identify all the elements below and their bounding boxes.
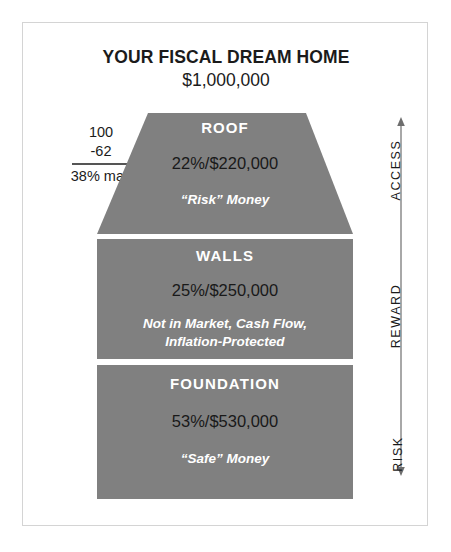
- axis-label-reward: REWARD: [389, 284, 403, 349]
- foundation-heading: FOUNDATION: [97, 375, 353, 392]
- axis-label-access: ACCESS: [389, 139, 403, 200]
- foundation-text-group: FOUNDATION 53%/$530,000 “Safe” Money: [97, 375, 353, 468]
- page-title: YOUR FISCAL DREAM HOME: [23, 47, 429, 67]
- walls-note-line-2: Inflation-Protected: [97, 333, 353, 351]
- walls-note: Not in Market, Cash Flow, Inflation-Prot…: [97, 315, 353, 351]
- right-axis-labels: ACCESS REWARD RISK: [375, 103, 429, 483]
- title-amount: $1,000,000: [23, 69, 429, 92]
- roof-note: “Risk” Money: [97, 191, 353, 209]
- roof-amount: 22%/$220,000: [97, 154, 353, 173]
- roof-text-group: ROOF 22%/$220,000 “Risk” Money: [97, 119, 353, 209]
- walls-note-line-1: Not in Market, Cash Flow,: [97, 315, 353, 333]
- title-block: YOUR FISCAL DREAM HOME $1,000,000: [23, 47, 429, 92]
- foundation-note: “Safe” Money: [97, 450, 353, 468]
- diagram-canvas: YOUR FISCAL DREAM HOME $1,000,000 100 -6…: [0, 0, 451, 552]
- roof-heading: ROOF: [97, 119, 353, 136]
- diagram-frame: YOUR FISCAL DREAM HOME $1,000,000 100 -6…: [22, 22, 428, 526]
- walls-text-group: WALLS 25%/$250,000 Not in Market, Cash F…: [97, 247, 353, 351]
- foundation-amount: 53%/$530,000: [97, 412, 353, 431]
- axis-label-risk: RISK: [391, 436, 405, 472]
- walls-amount: 25%/$250,000: [97, 281, 353, 300]
- walls-heading: WALLS: [97, 247, 353, 264]
